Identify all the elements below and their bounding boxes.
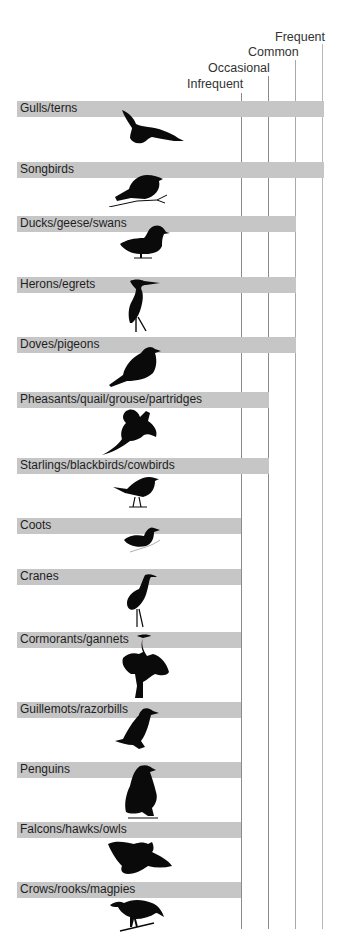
crane-icon	[125, 573, 161, 629]
crow-icon	[108, 897, 166, 933]
bar-songbirds: Songbirds	[17, 162, 324, 178]
bar-label: Penguins	[20, 762, 70, 777]
penguin-icon	[122, 764, 162, 820]
bird-strike-frequency-chart: Frequent Common Occasional Infrequent Gu…	[0, 0, 342, 948]
bar-label: Starlings/blackbirds/cowbirds	[20, 458, 175, 473]
bar-label: Coots	[20, 518, 51, 533]
bar-label: Crows/rooks/magpies	[20, 882, 135, 897]
pheasant-flying-icon	[100, 407, 164, 457]
level-label-common: Common	[248, 45, 299, 59]
bar-label: Falcons/hawks/owls	[20, 822, 127, 837]
guillemot-icon	[113, 707, 159, 755]
bar-label: Cormorants/gannets	[20, 632, 129, 647]
bar-pheasants-quail-grouse-partridges: Pheasants/quail/grouse/partridges	[17, 392, 269, 408]
coot-swimming-icon	[122, 524, 164, 554]
heron-icon	[126, 277, 164, 333]
bar-label: Songbirds	[20, 162, 74, 177]
bar-label: Guillemots/razorbills	[20, 702, 128, 717]
bar-falcons-hawks-owls: Falcons/hawks/owls	[17, 822, 241, 838]
level-label-frequent: Frequent	[275, 30, 325, 44]
bar-label: Ducks/geese/swans	[20, 216, 127, 231]
duck-icon	[118, 224, 170, 262]
bar-label: Pheasants/quail/grouse/partridges	[20, 392, 202, 407]
gridline-common	[295, 60, 296, 929]
bar-label: Cranes	[20, 569, 59, 584]
bar-label: Doves/pigeons	[20, 337, 99, 352]
gridline-occasional	[268, 76, 269, 929]
dove-icon	[107, 343, 163, 387]
cormorant-wings-spread-icon	[119, 634, 171, 700]
starling-icon	[111, 475, 161, 509]
bar-crows-rooks-magpies: Crows/rooks/magpies	[17, 882, 241, 898]
level-label-infrequent: Infrequent	[187, 77, 243, 91]
bar-label: Gulls/terns	[20, 101, 77, 116]
bar-label: Herons/egrets	[20, 277, 95, 292]
songbird-on-branch-icon	[107, 171, 169, 207]
bar-starlings-blackbirds-cowbirds: Starlings/blackbirds/cowbirds	[17, 458, 269, 474]
level-label-occasional: Occasional	[208, 61, 270, 75]
hawk-flying-icon	[106, 840, 174, 876]
gull-flying-icon	[118, 108, 188, 146]
